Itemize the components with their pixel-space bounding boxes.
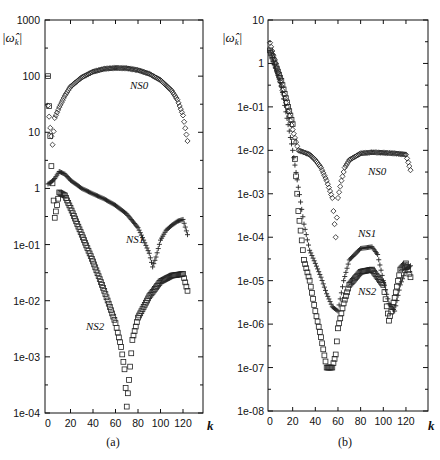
y-axis-label-b: |ω̂k| bbox=[222, 30, 242, 47]
x-tick-label: 40 bbox=[309, 415, 321, 427]
caption-b: (b) bbox=[338, 435, 352, 449]
panel-a: 020406080100120 10001001011e-011e-021e-0… bbox=[2, 14, 214, 449]
x-tick-label: 20 bbox=[65, 417, 77, 429]
figure: 020406080100120 10001001011e-011e-021e-0… bbox=[0, 0, 440, 460]
x-ticks-b: 020406080100120 bbox=[267, 20, 415, 427]
series-label-ns2-a: NS2 bbox=[85, 320, 105, 332]
x-ticks-a: 020406080100120 bbox=[45, 20, 192, 429]
y-tick-label: 1e-05 bbox=[237, 275, 264, 287]
x-tick-label: 0 bbox=[267, 415, 273, 427]
y-tick-label: 1e-03 bbox=[13, 351, 40, 363]
x-axis-label-b: k bbox=[428, 418, 435, 433]
series-label-ns0-b: NS0 bbox=[367, 165, 387, 177]
x-tick-label: 20 bbox=[287, 415, 299, 427]
x-tick-label: 80 bbox=[355, 415, 367, 427]
y-axis-label-a: |ω̂k| bbox=[2, 30, 22, 47]
y-tick-label: 1000 bbox=[17, 14, 41, 26]
y-tick-label: 100 bbox=[22, 70, 40, 82]
series-label-ns0-a: NS0 bbox=[129, 79, 149, 91]
y-tick-label: 1e-02 bbox=[237, 144, 264, 156]
y-tick-label: 1e-07 bbox=[237, 362, 264, 374]
y-tick-label: 1 bbox=[34, 182, 40, 194]
y-tick-label: 1e-02 bbox=[13, 295, 40, 307]
y-ticks-a: 10001001011e-011e-021e-031e-04 bbox=[13, 14, 203, 419]
y-tick-label: 1e-08 bbox=[237, 405, 264, 417]
y-tick-label: 1e-01 bbox=[13, 239, 40, 251]
series-label-ns1-b: NS1 bbox=[357, 227, 376, 239]
y-tick-label: 10 bbox=[252, 14, 264, 26]
plot-frame-b bbox=[268, 20, 428, 411]
plot-frame-a bbox=[45, 20, 203, 413]
x-tick-label: 100 bbox=[152, 417, 170, 429]
x-tick-label: 40 bbox=[87, 417, 99, 429]
x-tick-label: 60 bbox=[110, 417, 122, 429]
y-tick-label: 1 bbox=[258, 57, 264, 69]
series-label-ns1-a: NS1 bbox=[125, 233, 144, 245]
y-tick-label: 1e-04 bbox=[237, 231, 264, 243]
caption-a: (a) bbox=[106, 435, 119, 449]
x-tick-label: 100 bbox=[375, 415, 393, 427]
series-label-ns2-b: NS2 bbox=[357, 285, 377, 297]
x-tick-label: 120 bbox=[174, 417, 192, 429]
data-points-b bbox=[267, 40, 413, 370]
x-tick-label: 120 bbox=[397, 415, 415, 427]
x-axis-label-a: k bbox=[207, 418, 214, 433]
x-tick-label: 0 bbox=[45, 417, 51, 429]
y-tick-label: 1e-04 bbox=[13, 407, 40, 419]
y-tick-label: 1e-03 bbox=[237, 188, 264, 200]
y-tick-label: 1e-06 bbox=[237, 318, 264, 330]
y-tick-label: 10 bbox=[28, 126, 40, 138]
data-points-a bbox=[45, 65, 190, 409]
y-tick-label: 1e-01 bbox=[237, 101, 264, 113]
panel-b: 020406080100120 1011e-011e-021e-031e-041… bbox=[222, 14, 435, 449]
x-tick-label: 60 bbox=[332, 415, 344, 427]
x-tick-label: 80 bbox=[132, 417, 144, 429]
